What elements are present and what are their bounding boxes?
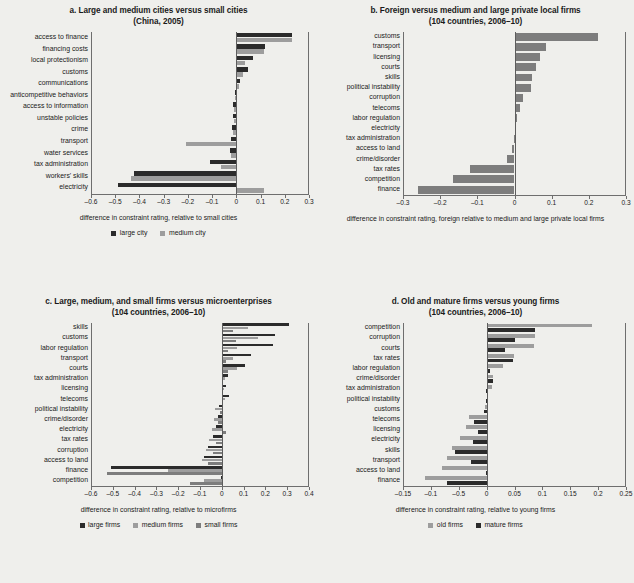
- axis-tick-label: –0.3: [150, 490, 163, 497]
- bar: [487, 334, 536, 338]
- axis-tick-label: –0.5: [452, 490, 465, 497]
- bar: [455, 450, 486, 454]
- panel-c-axis-title: difference in constraint rating, relativ…: [8, 506, 309, 515]
- axis-tick-label: 0.2: [594, 490, 603, 497]
- axis-tick-label: 0.1: [538, 490, 547, 497]
- bar: [118, 183, 236, 188]
- legend-swatch-icon: [196, 523, 201, 528]
- axis-tick-label: –0.4: [133, 198, 146, 205]
- axis-tick-label: 0.1: [547, 199, 556, 206]
- panel-a-subtitle: (China, 2005): [10, 17, 307, 28]
- bar: [210, 160, 236, 165]
- panel-c-x-axis: –0.6–0.5–0.4–0.3–0.2–0.100.10.20.30.4: [91, 486, 309, 500]
- legend-label: mature firms: [484, 522, 522, 529]
- bar: [222, 340, 236, 342]
- axis-tick-label: –0.4: [128, 490, 141, 497]
- panel-a-category-labels: access to financefinancing costslocal pr…: [8, 32, 91, 194]
- panel-b-x-axis: –0.3–0.2–0.100.10.20.3: [403, 195, 626, 209]
- panel-a: a. Large and medium cities versus small …: [0, 0, 317, 291]
- bar: [515, 33, 599, 41]
- bar: [442, 466, 487, 470]
- panel-d-category-labels: competitioncorruptioncourtstax rateslabo…: [325, 323, 403, 486]
- category-label: skills: [325, 72, 403, 82]
- legend-label: old firms: [437, 522, 463, 529]
- category-label: access to land: [325, 465, 403, 475]
- axis-tick-label: 0.15: [564, 490, 577, 497]
- category-label: customs: [325, 404, 403, 414]
- bar: [487, 364, 503, 368]
- bar-row: [92, 147, 308, 159]
- category-label: finance: [325, 184, 403, 194]
- category-label: tax administration: [325, 134, 403, 144]
- legend-swatch-icon: [111, 231, 116, 236]
- panel-a-title: a. Large and medium cities versus small …: [8, 6, 309, 28]
- category-label: local protectionism: [8, 55, 91, 67]
- bar-row: [92, 404, 308, 414]
- bar: [478, 430, 487, 434]
- category-label: transport: [8, 353, 91, 363]
- axis-tick-label: –0.5: [106, 490, 119, 497]
- axis-tick-label: 0: [485, 490, 489, 497]
- bar-row: [92, 435, 308, 445]
- bar-row: [404, 374, 625, 384]
- panel-b-subtitle: (104 countries, 2006–10): [327, 17, 624, 28]
- axis-tick-label: 0.3: [283, 490, 292, 497]
- bar: [236, 33, 292, 38]
- category-label: electricity: [325, 123, 403, 133]
- bar: [236, 38, 292, 43]
- bar-row: [404, 333, 625, 343]
- panel-c: c. Large, medium, and small firms versus…: [0, 291, 317, 583]
- category-label: political instability: [8, 404, 91, 414]
- bar-row: [92, 89, 308, 101]
- bar: [107, 472, 221, 474]
- bar-row: [92, 455, 308, 465]
- category-label: electricity: [325, 435, 403, 445]
- legend-item[interactable]: large city: [111, 230, 147, 237]
- category-label: crime: [8, 124, 91, 136]
- bar: [487, 328, 536, 332]
- category-label: tax rates: [325, 164, 403, 174]
- category-label: tax rates: [325, 353, 403, 363]
- bar: [236, 61, 245, 66]
- bar-row: [92, 78, 308, 90]
- legend-item[interactable]: mature firms: [476, 522, 523, 529]
- bar: [474, 420, 487, 424]
- category-label: telecoms: [325, 414, 403, 424]
- bar-row: [92, 374, 308, 384]
- bar-row: [92, 182, 308, 194]
- bar: [208, 462, 222, 464]
- panel-a-legend: large citymedium city: [8, 230, 309, 237]
- category-label: courts: [8, 363, 91, 373]
- bar: [460, 436, 487, 440]
- legend-item[interactable]: old firms: [428, 522, 463, 529]
- axis-tick-label: 0.05: [508, 490, 521, 497]
- bar: [212, 428, 222, 430]
- bar-row: [92, 66, 308, 78]
- bar: [471, 460, 487, 464]
- category-label: competition: [325, 323, 403, 333]
- panel-c-legend: large firmsmedium firmssmall firms: [8, 522, 309, 529]
- panel-c-title: c. Large, medium, and small firms versus…: [8, 297, 309, 319]
- bar: [236, 44, 265, 49]
- bar-row: [92, 43, 308, 55]
- axis-tick-label: 0.3: [621, 199, 630, 206]
- bar-rows: [404, 323, 625, 486]
- bar-row: [92, 323, 308, 333]
- category-label: tax administration: [8, 374, 91, 384]
- axis-tick-label: –0.1: [206, 198, 219, 205]
- bar-row: [404, 414, 625, 424]
- panel-a-plot: access to financefinancing costslocal pr…: [8, 32, 309, 194]
- legend-swatch-icon: [428, 523, 433, 528]
- bar-row: [92, 101, 308, 113]
- bar-row: [404, 363, 625, 373]
- legend-item[interactable]: medium city: [160, 230, 205, 237]
- legend-item[interactable]: large firms: [80, 522, 121, 529]
- category-label: licensing: [325, 425, 403, 435]
- category-label: electricity: [8, 182, 91, 194]
- legend-item[interactable]: small firms: [196, 522, 237, 529]
- category-label: labor regulation: [325, 113, 403, 123]
- axis-tick-label: –0.2: [434, 199, 447, 206]
- category-label: skills: [325, 445, 403, 455]
- legend-item[interactable]: medium firms: [133, 522, 183, 529]
- axis-tick-label: 0.1: [239, 490, 248, 497]
